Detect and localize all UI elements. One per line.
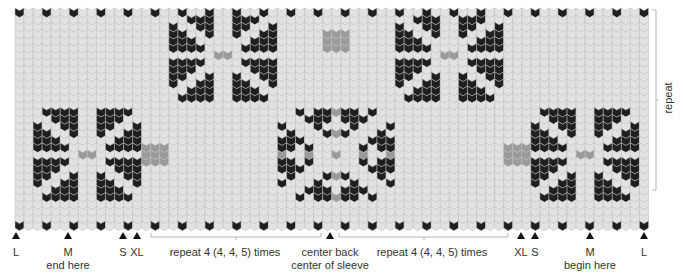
marker-triangle-XL-left — [133, 232, 141, 239]
marker-label-XL-left: XL — [130, 246, 143, 259]
marker-label-S-left: S — [119, 246, 126, 259]
marker-label-S-right: S — [531, 246, 538, 259]
marker-sublabel-M-right: begin here — [564, 259, 616, 272]
bracket-label-right: repeat 4 (4, 4, 5) times — [377, 246, 488, 259]
marker-triangle-S-left — [119, 232, 127, 239]
marker-sublabel-M-left: end here — [46, 259, 89, 272]
repeat-label: repeat — [662, 82, 674, 113]
marker-sublabel-center: center of sleeve — [291, 259, 369, 272]
marker-triangle-L-left — [12, 232, 20, 239]
marker-label-L-left: L — [13, 246, 19, 259]
marker-label-XL-right: XL — [514, 246, 527, 259]
marker-label-M-right: M — [585, 246, 594, 259]
marker-label-center: center back — [302, 246, 359, 259]
marker-triangle-M-right — [586, 232, 594, 239]
marker-triangle-L-right — [640, 232, 648, 239]
marker-triangle-center — [326, 232, 334, 239]
stitch-grid — [15, 8, 649, 231]
marker-triangle-S-right — [531, 232, 539, 239]
marker-triangle-M-left — [64, 232, 72, 239]
knitting-chart — [0, 0, 683, 277]
marker-triangle-XL-right — [517, 232, 525, 239]
marker-label-M-left: M — [63, 246, 72, 259]
bracket-label-left: repeat 4 (4, 4, 5) times — [170, 246, 281, 259]
marker-label-L-right: L — [641, 246, 647, 259]
